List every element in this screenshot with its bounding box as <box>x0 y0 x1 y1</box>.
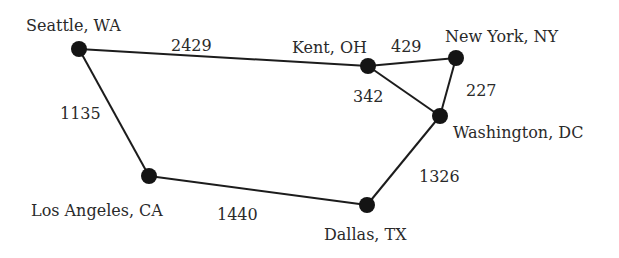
edge-weights: 2429 429 342 227 1135 1440 1326 <box>60 36 497 224</box>
weight-seattle-kent: 2429 <box>171 36 212 55</box>
nodes <box>71 41 464 213</box>
node-newyork <box>448 50 464 66</box>
edge-newyork-washington <box>440 58 456 116</box>
label-dallas: Dallas, TX <box>324 225 407 244</box>
weight-washington-dallas: 1326 <box>419 167 460 186</box>
label-seattle: Seattle, WA <box>26 16 121 35</box>
node-losangeles <box>141 168 157 184</box>
weighted-city-graph: Seattle, WA Kent, OH New York, NY Washin… <box>0 0 619 258</box>
node-dallas <box>359 197 375 213</box>
edge-kent-newyork <box>368 58 456 66</box>
node-washington <box>432 108 448 124</box>
weight-kent-washington: 342 <box>353 87 384 106</box>
edge-washington-dallas <box>367 116 440 205</box>
edges <box>79 49 456 205</box>
weight-kent-newyork: 429 <box>391 37 422 56</box>
label-washington: Washington, DC <box>453 123 583 142</box>
edge-losangeles-dallas <box>149 176 367 205</box>
node-seattle <box>71 41 87 57</box>
label-losangeles: Los Angeles, CA <box>31 201 163 220</box>
node-kent <box>360 58 376 74</box>
weight-seattle-losangeles: 1135 <box>60 104 101 123</box>
weight-newyork-washington: 227 <box>466 81 497 100</box>
weight-losangeles-dallas: 1440 <box>217 205 258 224</box>
label-kent: Kent, OH <box>292 38 367 57</box>
label-newyork: New York, NY <box>445 27 559 46</box>
